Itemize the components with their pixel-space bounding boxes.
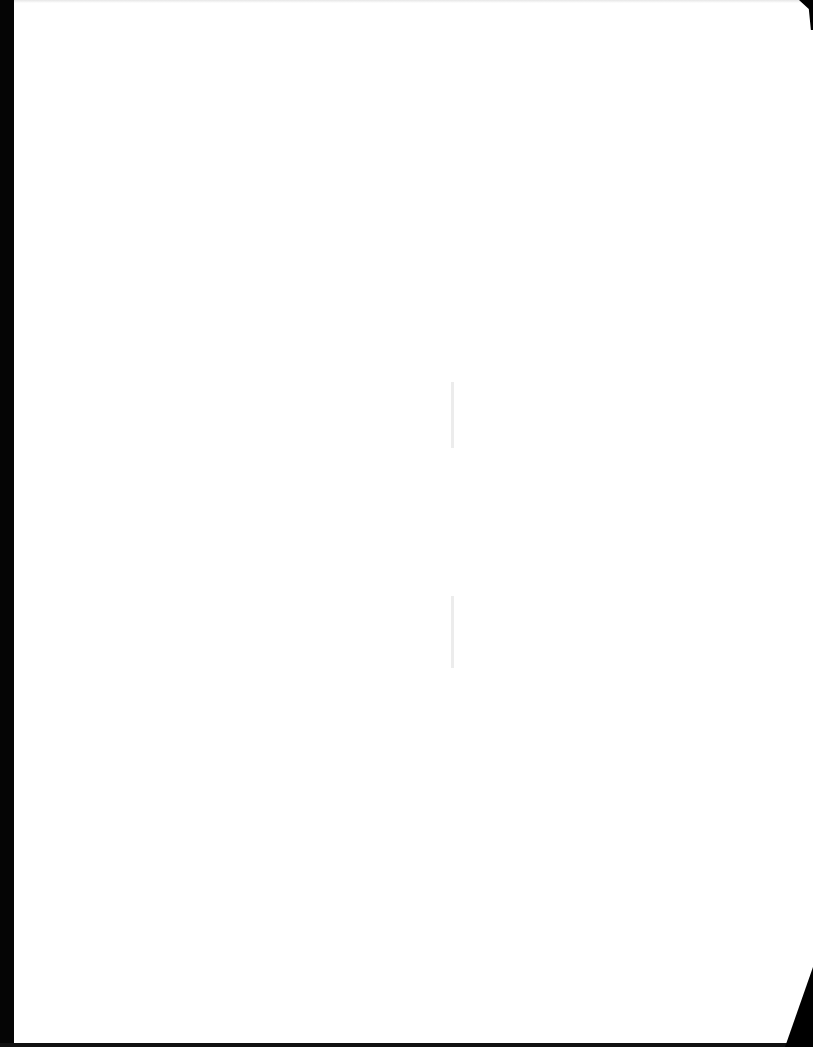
top-scan-shadow <box>14 0 813 3</box>
scanned-page <box>0 0 813 1047</box>
bleed-through-mark-upper <box>451 382 454 448</box>
left-scan-border <box>0 0 14 1047</box>
bottom-right-corner-shadow <box>785 967 813 1047</box>
bottom-scan-border <box>0 1043 813 1047</box>
top-right-corner-shadow <box>799 0 813 30</box>
bleed-through-mark-lower <box>451 596 454 668</box>
